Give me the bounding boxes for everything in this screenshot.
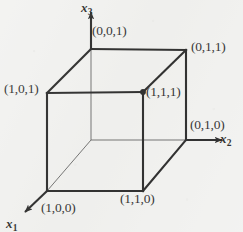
edge-v001-v101	[47, 49, 91, 93]
cube-visible-edges	[47, 49, 186, 191]
x2-axis-label: x2	[220, 132, 231, 148]
hidden-edge-origin-to-v100	[47, 140, 91, 191]
vertex-label-1-1-0: (1,1,0)	[120, 192, 155, 206]
x3-axis-label-subscript: 3	[88, 7, 93, 17]
x2-axis-label-subscript: 2	[227, 138, 232, 148]
x3-axis-label-base: x	[81, 0, 88, 15]
vertex-label-0-1-0: (0,1,0)	[190, 118, 225, 132]
x1-axis-label-subscript: 1	[13, 223, 18, 232]
vertex-label-0-0-1: (0,0,1)	[92, 24, 127, 38]
vertex-label-1-0-0: (1,0,0)	[41, 201, 76, 215]
vertex-label-0-1-1: (0,1,1)	[191, 40, 226, 54]
edge-v101-v111	[47, 92, 143, 93]
edge-v001-v011	[91, 49, 186, 50]
x1-axis-label-base: x	[6, 216, 13, 231]
vertex-label-1-1-1: (1,1,1)	[146, 85, 181, 99]
unit-cube-figure: (0,0,1) (0,1,1) (1,0,1) (1,1,1) (0,1,0) …	[0, 0, 243, 232]
x3-axis-label: x3	[81, 1, 92, 17]
vertex-label-1-0-1: (1,0,1)	[4, 82, 39, 96]
x1-axis-label: x1	[6, 217, 17, 232]
edge-v110-v010	[143, 140, 186, 191]
x2-axis-label-base: x	[220, 131, 227, 146]
